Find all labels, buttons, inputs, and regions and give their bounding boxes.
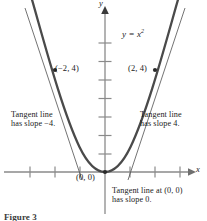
- note-tangent-origin: Tangent line at (0, 0) has slope 0.: [112, 186, 183, 204]
- note-tangent-left-line2: has slope −4.: [11, 119, 55, 128]
- equation-label: y = x2: [122, 28, 144, 39]
- tangent-line-left: [25, 8, 82, 180]
- figure-caption: Figure 3: [4, 212, 37, 221]
- note-tangent-right-line2: has slope 4.: [140, 119, 182, 128]
- equation-exponent: 2: [141, 28, 144, 34]
- note-tangent-origin-line1: Tangent line at (0, 0): [112, 186, 183, 195]
- point-marker-2-4: [153, 68, 157, 72]
- x-axis-label: x: [196, 165, 200, 175]
- note-tangent-origin-line2: has slope 0.: [112, 195, 183, 204]
- note-tangent-left: Tangent line has slope −4.: [11, 110, 55, 128]
- note-tangent-left-line1: Tangent line: [11, 110, 55, 119]
- point-label-2-4: (2, 4): [128, 64, 147, 74]
- x-axis-arrow: [188, 168, 196, 176]
- point-label-neg2-4: (−2, 4): [55, 64, 79, 74]
- y-axis-group: [99, 6, 112, 214]
- note-tangent-right-line1: Tangent line: [140, 110, 182, 119]
- figure-parabola-tangent-lines: (−2, 4) (2, 4) (0, 0) y = x2 Tangent lin…: [0, 0, 207, 221]
- y-axis-label: y: [99, 0, 103, 9]
- point-label-origin: (0, 0): [76, 173, 95, 183]
- note-tangent-right: Tangent line has slope 4.: [140, 110, 182, 128]
- equation-text: y = x: [122, 29, 141, 39]
- point-marker-origin: [103, 170, 107, 174]
